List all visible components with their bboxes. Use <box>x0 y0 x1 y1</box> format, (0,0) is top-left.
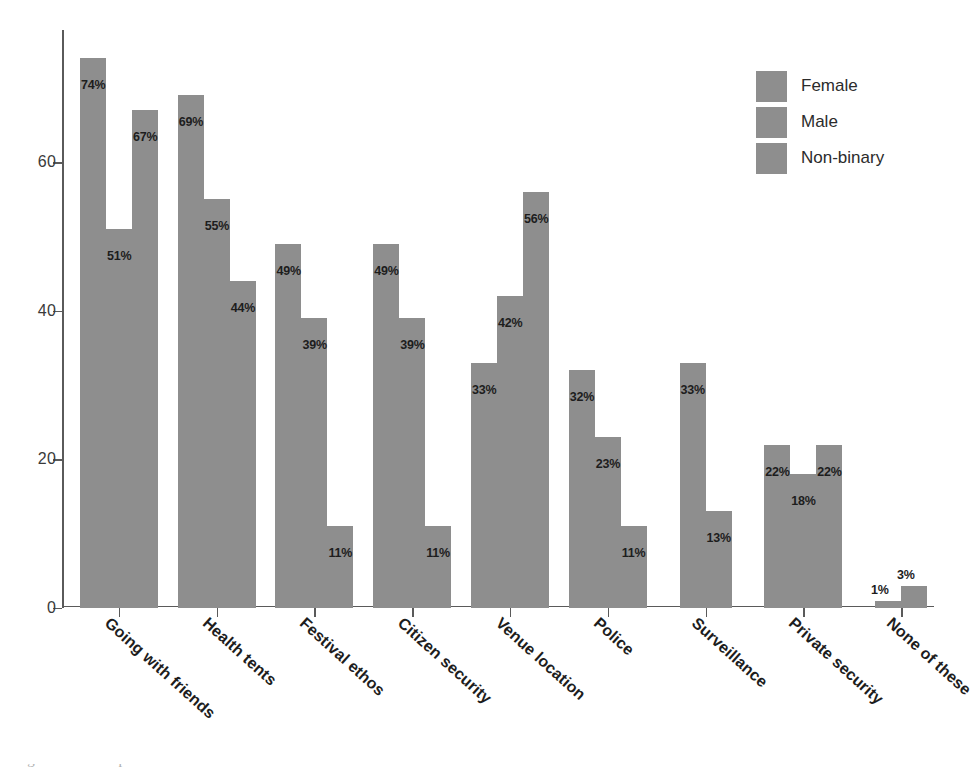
x-axis-category-label: None of these <box>883 614 974 699</box>
bar-value-label: 3% <box>897 568 915 582</box>
bar-value-label: 67% <box>133 130 157 144</box>
bar-female[interactable]: 33% <box>680 30 706 608</box>
bar-value-label: 49% <box>276 264 300 278</box>
bar-value-label: 74% <box>81 78 105 92</box>
x-axis-tick <box>803 608 804 617</box>
bar-rect <box>471 363 497 608</box>
bar-rect <box>680 363 706 608</box>
legend-label: Male <box>801 112 838 132</box>
bar-value-label: 18% <box>791 494 815 508</box>
bar-rect <box>523 192 549 608</box>
bar-female[interactable]: 33% <box>471 30 497 608</box>
bar-value-label: 55% <box>205 219 229 233</box>
bar-rect <box>327 526 353 608</box>
caption-strip: illegible cut-off caption line <box>0 764 963 784</box>
chart-legend: FemaleMaleNon-binary <box>756 68 884 176</box>
bar-group: 33%13% <box>680 30 732 608</box>
x-axis-category-label: Festival ethos <box>296 614 388 700</box>
bar-value-label: 69% <box>179 115 203 129</box>
bar-value-label: 22% <box>765 465 789 479</box>
bar-female[interactable]: 49% <box>275 30 301 608</box>
y-axis-tick-label: 40 <box>38 302 56 320</box>
bar-male[interactable]: 39% <box>301 30 327 608</box>
bar-male[interactable]: 55% <box>204 30 230 608</box>
bar-non-binary[interactable]: 44% <box>230 30 256 608</box>
bar-female[interactable]: 69% <box>178 30 204 608</box>
x-axis-tick <box>314 608 315 617</box>
x-axis-category-label: Surveillance <box>688 614 771 691</box>
bar-non-binary[interactable]: 11% <box>327 30 353 608</box>
bar-non-binary[interactable]: 11% <box>621 30 647 608</box>
bar-value-label: 56% <box>524 212 548 226</box>
bar-group: 49%39%11% <box>275 30 353 608</box>
bar-value-label: 11% <box>328 546 352 560</box>
legend-item[interactable]: Female <box>756 68 884 104</box>
bar-male[interactable]: 3% <box>901 30 927 608</box>
x-axis-tick <box>119 608 120 617</box>
bar-rect <box>80 58 106 608</box>
bar-group: 49%39%11% <box>373 30 451 608</box>
bar-value-label: 13% <box>707 531 731 545</box>
x-axis-category-label: Venue location <box>492 614 589 704</box>
x-axis-tick <box>412 608 413 617</box>
bar-value-label: 39% <box>302 338 326 352</box>
x-axis-category-label: Private security <box>785 614 887 708</box>
bar-value-label: 33% <box>681 383 705 397</box>
legend-item[interactable]: Male <box>756 104 884 140</box>
bar-rect <box>706 511 732 608</box>
y-axis-tick-label: 60 <box>38 153 56 171</box>
y-axis-tick-label: 20 <box>38 450 56 468</box>
bar-rect <box>301 318 327 608</box>
x-axis-tick <box>901 608 902 617</box>
bar-value-label: 51% <box>107 249 131 263</box>
bar-group: 74%51%67% <box>80 30 158 608</box>
legend-label: Non-binary <box>801 148 884 168</box>
bar-rect <box>204 199 230 608</box>
bar-value-label: 32% <box>570 390 594 404</box>
bar-group: 32%23%11% <box>569 30 647 608</box>
bar-male[interactable]: 39% <box>399 30 425 608</box>
bar-value-label: 11% <box>426 546 450 560</box>
bar-value-label: 23% <box>596 457 620 471</box>
bar-value-label: 42% <box>498 316 522 330</box>
caption-cut-off-line: illegible cut-off caption line <box>8 764 176 768</box>
bar-rect <box>373 244 399 608</box>
x-axis-tick <box>510 608 511 617</box>
bar-value-label: 44% <box>231 301 255 315</box>
x-axis-category-label: Going with friends <box>101 614 219 723</box>
bar-value-label: 33% <box>472 383 496 397</box>
bar-value-label: 1% <box>871 583 889 597</box>
bar-female[interactable]: 49% <box>373 30 399 608</box>
bar-rect <box>106 229 132 608</box>
bar-group: 69%55%44% <box>178 30 256 608</box>
x-axis-category-label: Citizen security <box>394 614 495 708</box>
legend-label: Female <box>801 76 858 96</box>
bar-male[interactable]: 51% <box>106 30 132 608</box>
bar-female[interactable]: 32% <box>569 30 595 608</box>
bar-rect <box>132 110 158 608</box>
legend-swatch-female <box>756 71 787 102</box>
bar-non-binary[interactable]: 67% <box>132 30 158 608</box>
bar-non-binary[interactable]: 11% <box>425 30 451 608</box>
bar-female[interactable]: 74% <box>80 30 106 608</box>
bar-rect <box>178 95 204 608</box>
bar-group: 33%42%56% <box>471 30 549 608</box>
bar-rect <box>497 296 523 608</box>
x-axis-tick <box>608 608 609 617</box>
bar-male[interactable]: 42% <box>497 30 523 608</box>
bar-rect <box>230 281 256 608</box>
bar-rect <box>275 244 301 608</box>
bar-rect <box>399 318 425 608</box>
bar-rect <box>621 526 647 608</box>
bar-male[interactable]: 23% <box>595 30 621 608</box>
bar-rect <box>425 526 451 608</box>
legend-swatch-non-binary <box>756 143 787 174</box>
bar-male[interactable]: 13% <box>706 30 732 608</box>
legend-item[interactable]: Non-binary <box>756 140 884 176</box>
x-axis-tick <box>706 608 707 617</box>
x-axis-category-label: Police <box>590 614 638 659</box>
bar-value-label: 49% <box>374 264 398 278</box>
bar-value-label: 39% <box>400 338 424 352</box>
bar-non-binary[interactable]: 56% <box>523 30 549 608</box>
